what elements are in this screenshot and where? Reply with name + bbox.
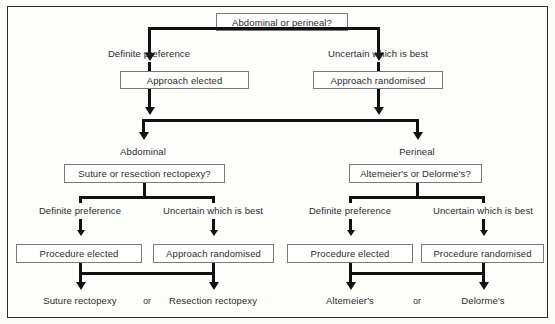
- outcome-altemeiers: Altemeier's: [326, 295, 374, 306]
- label-abdominal-arm: Abdominal: [120, 146, 166, 157]
- arrowhead-approach-elected-down: [145, 107, 155, 115]
- node-abdominal-question: Suture or resection rectopexy?: [64, 164, 225, 183]
- edge-abdominal-right-drop: [212, 196, 215, 203]
- edge-perineal-right-drop: [482, 196, 485, 203]
- edge-abdominal-split-bar: [79, 196, 214, 199]
- node-per-procedure-randomised: Procedure randomised: [421, 244, 544, 263]
- outcome-suture-rectopexy: Suture rectopexy: [43, 295, 116, 306]
- arrowhead-abd-procedure-elected: [77, 230, 85, 236]
- label-abdominal-left-branch: Definite preference: [39, 205, 121, 216]
- label-perineal-left-branch: Definite preference: [309, 205, 391, 216]
- arrowhead-abdominal-arm: [139, 132, 149, 140]
- outcome-perineal-or: or: [413, 296, 421, 306]
- arrowhead-per-procedure-randomised: [480, 230, 488, 236]
- edge-into-approach-randomised: [377, 62, 380, 71]
- arrowhead-per-outcome-left: [346, 282, 356, 290]
- node-per-procedure-elected: Procedure elected: [287, 244, 413, 263]
- edge-arm-split-bar: [142, 119, 418, 122]
- arrowhead-per-outcome-right: [479, 282, 489, 290]
- edge-approach-elected-down: [148, 89, 151, 109]
- figure-canvas: Abdominal or perineal? Definite preferen…: [0, 0, 555, 324]
- edge-abd-outcome-bar: [79, 272, 215, 275]
- edge-perineal-question-stem: [416, 183, 419, 196]
- edge-perineal-split-bar: [349, 196, 484, 199]
- arrowhead-per-procedure-elected: [347, 230, 355, 236]
- edge-approach-randomised-down: [377, 89, 380, 109]
- node-abd-procedure-elected: Procedure elected: [16, 244, 142, 263]
- edge-abdominal-question-stem: [143, 183, 146, 196]
- node-approach-elected: Approach elected: [120, 71, 249, 89]
- arrowhead-abd-outcome-left: [76, 282, 86, 290]
- label-top-right-branch: Uncertain which is best: [328, 48, 428, 59]
- outcome-delormes: Delorme's: [461, 295, 504, 306]
- edge-perineal-left-drop: [349, 196, 352, 203]
- edge-into-approach-elected: [148, 62, 151, 71]
- label-abdominal-right-branch: Uncertain which is best: [163, 205, 263, 216]
- arrowhead-approach-randomised-down: [374, 107, 384, 115]
- outcome-resection-rectopexy: Resection rectopexy: [169, 295, 257, 306]
- outcome-abdominal-or: or: [143, 296, 151, 306]
- label-perineal-right-branch: Uncertain which is best: [433, 205, 533, 216]
- node-abd-approach-randomised: Approach randomised: [153, 244, 274, 263]
- edge-root-split-bar: [148, 27, 379, 30]
- figure-frame: Abdominal or perineal? Definite preferen…: [7, 6, 548, 318]
- node-perineal-question: Altemeier's or Delorme's?: [349, 164, 482, 183]
- arrowhead-abd-outcome-right: [209, 282, 219, 290]
- edge-abdominal-left-drop: [79, 196, 82, 203]
- node-approach-randomised: Approach randomised: [313, 71, 443, 89]
- label-perineal-arm: Perineal: [399, 146, 435, 157]
- label-top-left-branch: Definite preference: [108, 48, 190, 59]
- arrowhead-perineal-arm: [413, 132, 423, 140]
- arrowhead-abd-approach-randomised: [210, 230, 218, 236]
- edge-per-outcome-bar: [349, 272, 485, 275]
